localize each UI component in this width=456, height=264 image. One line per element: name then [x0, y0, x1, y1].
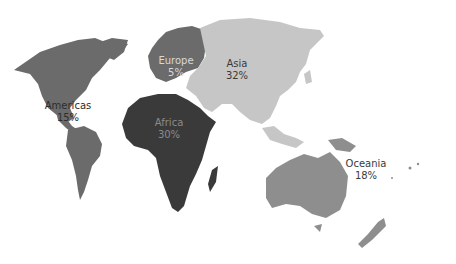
label-africa: Africa 30% [155, 117, 184, 141]
label-americas: Americas 15% [45, 100, 91, 124]
label-europe-pct: 5% [158, 67, 193, 79]
label-asia: Asia 32% [226, 58, 248, 82]
label-americas-name: Americas [45, 100, 91, 112]
label-asia-name: Asia [226, 58, 248, 70]
label-oceania-pct: 18% [346, 170, 387, 182]
label-americas-pct: 15% [45, 112, 91, 124]
label-oceania-name: Oceania [346, 158, 387, 170]
label-europe: Europe 5% [158, 55, 193, 79]
region-oceania[interactable] [266, 138, 386, 248]
label-africa-pct: 30% [155, 129, 184, 141]
label-europe-name: Europe [158, 55, 193, 67]
world-map [0, 0, 456, 264]
label-asia-pct: 32% [226, 70, 248, 82]
small-islands [391, 163, 419, 179]
label-africa-name: Africa [155, 117, 184, 129]
label-oceania: Oceania 18% [346, 158, 387, 182]
region-africa[interactable] [122, 94, 218, 212]
